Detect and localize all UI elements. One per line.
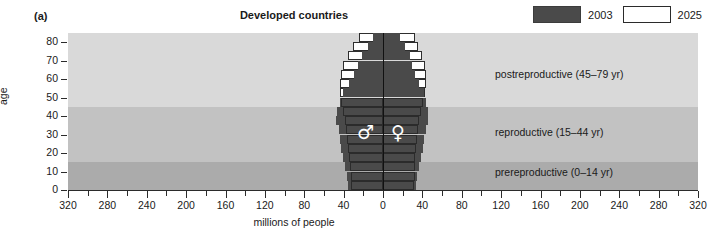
x-tick-mark--140 [245, 191, 246, 196]
x-tick-label-9: 40 [402, 199, 442, 211]
legend-item-2025: 2025 [623, 6, 702, 23]
y-tick-mark-50 [61, 98, 67, 99]
y-tick-label-0: 0 [32, 183, 58, 195]
plot-area: ♂♀ postreproductive (45–79 yr)reproducti… [68, 33, 698, 190]
x-tick-mark-260 [639, 191, 640, 196]
x-tick-mark--220 [166, 191, 167, 196]
legend-item-2003: 2003 [533, 6, 612, 23]
center-axis-line [383, 33, 384, 190]
x-tick-label-8: 0 [363, 199, 403, 211]
x-tick-label-11: 120 [481, 199, 521, 211]
outline-2025-female-45-49 [383, 98, 423, 107]
x-tick-mark--160 [226, 191, 227, 198]
x-tick-mark--120 [265, 191, 266, 198]
x-tick-mark-100 [481, 191, 482, 196]
band-label-reproductive: reproductive (15–44 yr) [495, 126, 604, 138]
x-tick-mark-220 [600, 191, 601, 196]
y-tick-label-60: 60 [32, 72, 58, 84]
bar-2003-male-55-59 [349, 79, 383, 88]
bar-2003-male-70-74 [362, 51, 383, 60]
y-tick-label-70: 70 [32, 54, 58, 66]
y-tick-mark-20 [61, 153, 67, 154]
x-tick-label-1: 280 [87, 199, 127, 211]
bar-2003-male-75-79 [368, 42, 383, 51]
x-tick-mark--60 [324, 191, 325, 196]
legend-swatch-2025 [623, 6, 671, 23]
x-tick-mark-180 [560, 191, 561, 196]
x-tick-mark--100 [285, 191, 286, 196]
band-label-prereproductive: prereproductive (0–14 yr) [495, 166, 613, 178]
x-tick-mark-20 [403, 191, 404, 196]
outline-2025-male-0-4 [351, 181, 383, 190]
x-tick-mark-160 [541, 191, 542, 198]
bar-2003-female-75-79 [383, 42, 405, 51]
y-tick-label-30: 30 [32, 128, 58, 140]
x-tick-label-14: 240 [599, 199, 639, 211]
x-tick-label-12: 160 [521, 199, 561, 211]
y-tick-mark-30 [61, 135, 67, 136]
y-tick-label-40: 40 [32, 109, 58, 121]
bar-2003-male-50-54 [343, 88, 383, 97]
x-tick-mark--180 [206, 191, 207, 196]
y-tick-mark-0 [61, 190, 67, 191]
x-tick-mark-140 [521, 191, 522, 196]
x-tick-mark-240 [619, 191, 620, 198]
population-pyramid-figure: (a) Developed countries 2003 2025 010203… [0, 0, 708, 243]
x-tick-label-16: 320 [678, 199, 708, 211]
y-axis-title: age [0, 87, 9, 105]
x-tick-mark-40 [422, 191, 423, 198]
y-tick-mark-80 [61, 42, 67, 43]
y-tick-label-20: 20 [32, 146, 58, 158]
x-tick-label-4: 160 [206, 199, 246, 211]
y-tick-mark-10 [61, 172, 67, 173]
x-tick-label-7: 40 [324, 199, 364, 211]
bar-2003-female-50-54 [383, 88, 424, 97]
y-tick-label-80: 80 [32, 35, 58, 47]
bar-2003-female-60-64 [383, 70, 415, 79]
bar-2003-male-60-64 [354, 70, 383, 79]
x-tick-mark--320 [68, 191, 69, 198]
bar-2003-female-80+ [383, 33, 400, 42]
outline-2025-male-5-9 [351, 172, 383, 181]
x-tick-label-0: 320 [48, 199, 88, 211]
outline-2025-male-20-24 [348, 144, 383, 153]
bar-2003-male-65-69 [358, 61, 383, 70]
x-tick-label-13: 200 [560, 199, 600, 211]
x-axis-title: millions of people [0, 216, 648, 228]
outline-2025-female-5-9 [383, 172, 415, 181]
y-tick-label-50: 50 [32, 91, 58, 103]
x-tick-mark-300 [678, 191, 679, 196]
outline-2025-female-10-14 [383, 162, 415, 171]
x-tick-mark--260 [127, 191, 128, 196]
outline-2025-female-15-19 [383, 153, 415, 162]
female-symbol: ♀ [391, 123, 405, 142]
outline-2025-female-20-24 [383, 144, 416, 153]
x-tick-mark--280 [107, 191, 108, 198]
outline-2025-female-40-44 [383, 107, 421, 116]
x-tick-mark--240 [147, 191, 148, 198]
band-label-postreproductive: postreproductive (45–79 yr) [495, 68, 623, 80]
legend-swatch-2003 [533, 6, 581, 23]
x-tick-mark-280 [659, 191, 660, 198]
x-tick-mark--20 [363, 191, 364, 196]
x-tick-label-3: 200 [166, 199, 206, 211]
bar-2003-male-80+ [373, 33, 383, 42]
x-tick-mark-60 [442, 191, 443, 196]
legend: 2003 2025 [533, 6, 702, 23]
outline-2025-male-40-44 [343, 107, 383, 116]
bar-2003-female-70-74 [383, 51, 410, 60]
y-tick-label-10: 10 [32, 165, 58, 177]
x-tick-label-15: 280 [639, 199, 679, 211]
outline-2025-female-0-4 [383, 181, 414, 190]
male-symbol: ♂ [357, 123, 374, 142]
x-tick-label-10: 80 [442, 199, 482, 211]
x-tick-mark--300 [88, 191, 89, 196]
y-tick-mark-70 [61, 61, 67, 62]
bar-2003-female-55-59 [383, 79, 419, 88]
y-tick-mark-60 [61, 79, 67, 80]
legend-label-2003: 2003 [588, 9, 612, 21]
x-tick-label-2: 240 [127, 199, 167, 211]
x-tick-mark-200 [580, 191, 581, 198]
x-tick-label-6: 80 [284, 199, 324, 211]
x-tick-mark-80 [462, 191, 463, 198]
